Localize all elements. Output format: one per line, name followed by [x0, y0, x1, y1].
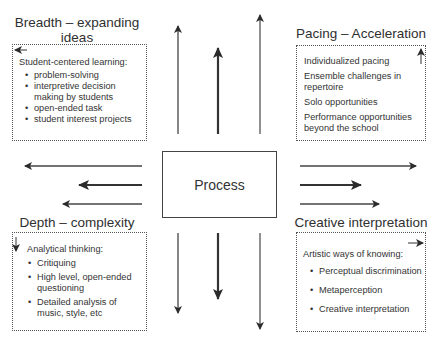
creative-list: •Perceptual discrimination •Metapercepti…	[310, 266, 425, 323]
breadth-heading: Student-centered learning:	[19, 57, 127, 67]
depth-heading: Analytical thinking:	[27, 244, 103, 254]
list-item: •Creative interpretation	[310, 304, 425, 315]
list-item: Individualized pacing	[304, 56, 416, 67]
depth-list: •Critiquing •High level, open-ended ques…	[28, 258, 140, 319]
breadth-title-line1: Breadth – expanding	[8, 15, 146, 30]
list-item: •Critiquing	[28, 258, 140, 269]
creative-title: Creative interpretation	[292, 215, 430, 230]
list-item: Performance opportunities beyond the sch…	[304, 112, 416, 134]
list-item: •student interest projects	[25, 114, 143, 125]
list-item: •High level, open-ended questioning	[28, 272, 140, 294]
list-item: Ensemble challenges in repertoire	[304, 71, 416, 93]
list-item: Solo opportunities	[304, 97, 416, 108]
list-item: •Perceptual discrimination	[310, 266, 425, 277]
pacing-list: Individualized pacing Ensemble challenge…	[304, 56, 416, 138]
list-item: •Metaperception	[310, 285, 425, 296]
list-item: •open-ended task	[25, 103, 143, 114]
breadth-list: •problem-solving •interpretive decision …	[25, 70, 143, 125]
breadth-title-line2: ideas	[8, 30, 146, 45]
pacing-title: Pacing – Acceleration	[292, 26, 430, 41]
list-item: •problem-solving	[25, 70, 143, 81]
depth-title: Depth – complexity	[8, 215, 146, 230]
breadth-title: Breadth – expanding ideas	[8, 15, 146, 45]
list-item: •Detailed analysis of music, style, etc	[28, 297, 140, 319]
creative-heading: Artistic ways of knowing:	[303, 249, 403, 259]
process-label: Process	[194, 177, 245, 193]
process-box: Process	[162, 151, 277, 218]
list-item: •interpretive decision making by student…	[25, 81, 143, 103]
